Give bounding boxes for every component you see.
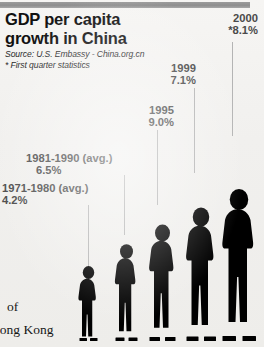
pictogram-figure-2000 xyxy=(212,186,264,341)
pictogram-figure-1971-1980 xyxy=(73,264,104,341)
pictogram-figure-1981-1990 xyxy=(108,242,145,341)
infographic-canvas: GDP per capita growth in China Source: U… xyxy=(0,0,264,347)
pictogram-group xyxy=(0,0,264,347)
